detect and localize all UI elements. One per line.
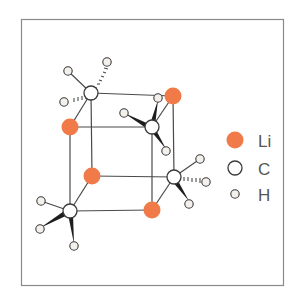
legend-carbon-label: C bbox=[258, 160, 270, 179]
diagram-canvas: Li C H bbox=[0, 0, 303, 303]
legend-lithium-label: Li bbox=[258, 132, 271, 151]
carbon-atom bbox=[145, 120, 159, 134]
hydrogen-atom bbox=[60, 98, 68, 106]
lithium-atom bbox=[62, 119, 79, 136]
hydrogen-atom bbox=[120, 109, 128, 117]
carbon-atom bbox=[84, 86, 98, 100]
hydrogen-atom bbox=[162, 147, 170, 155]
lithium-atom bbox=[144, 202, 161, 219]
hydrogen-atom bbox=[37, 197, 45, 205]
legend-carbon-icon bbox=[228, 161, 242, 175]
carbon-atom bbox=[63, 204, 77, 218]
hydrogen-atom bbox=[36, 225, 44, 233]
lithium-atom bbox=[84, 168, 101, 185]
hydrogen-atom bbox=[103, 58, 111, 66]
hydrogen-atom bbox=[185, 200, 193, 208]
legend-lithium-icon bbox=[227, 132, 244, 149]
legend-hydrogen-label: H bbox=[258, 186, 270, 205]
hydrogen-atom bbox=[154, 94, 162, 102]
carbon-atom bbox=[167, 170, 181, 184]
hydrogen-atom bbox=[202, 178, 210, 186]
hydrogen-atom bbox=[64, 67, 72, 75]
hydrogen-atom bbox=[70, 242, 78, 250]
hydrogen-atom bbox=[196, 155, 204, 163]
lithium-atom bbox=[165, 88, 182, 105]
legend-hydrogen-icon bbox=[231, 190, 239, 198]
